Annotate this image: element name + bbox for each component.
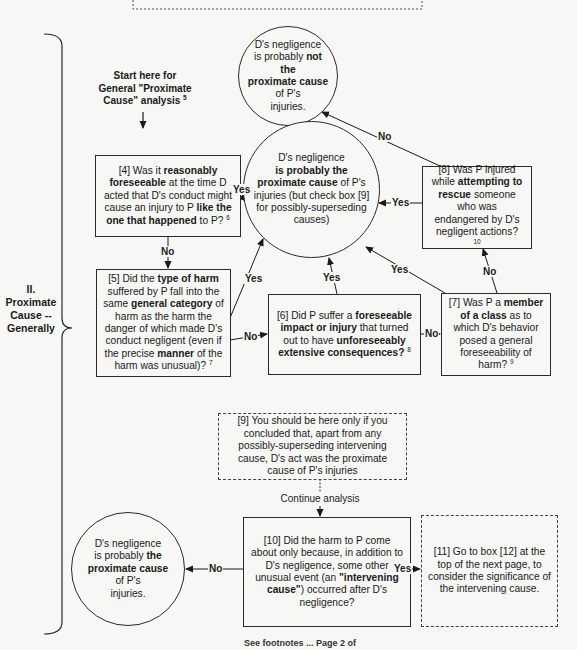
outcome-proximate-main-circle: D's negligence is probably the proximate… xyxy=(243,121,380,258)
circle-text: causes) xyxy=(254,214,370,226)
start-here-label: Start here for General "Proximate Cause"… xyxy=(95,70,195,108)
edge-label-b7-yes: Yes xyxy=(390,264,409,275)
circle-text: is probably xyxy=(254,51,306,62)
box-text: [11] Go to box [12] at the top of the ne… xyxy=(428,546,551,596)
section-number: II. xyxy=(2,283,60,296)
circle-text: D's negligence xyxy=(254,152,370,164)
section-title-line: Proximate xyxy=(2,296,60,309)
start-line: General "Proximate xyxy=(95,83,195,96)
outcome-not-proximate-circle: D's negligence is probably not the proxi… xyxy=(238,26,338,126)
edge-label-b8-no: No xyxy=(377,131,392,142)
circle-text-emphasis: is probably the xyxy=(275,165,347,176)
circle-text-emphasis: proximate cause xyxy=(88,563,168,574)
circle-text: is probably xyxy=(94,550,146,561)
start-line: Cause" analysis xyxy=(103,95,180,106)
box-text: [7] Was P a xyxy=(449,297,504,308)
edge-label-b4-yes: Yes xyxy=(232,184,251,195)
circle-text: for possibly-superseding xyxy=(254,202,370,214)
box-text: [4] Was it xyxy=(119,165,164,176)
edge-label-b10-yes: Yes xyxy=(393,563,412,574)
circle-text-emphasis: proximate cause xyxy=(257,177,337,188)
box-text: [9] You should be here only if you concl… xyxy=(225,415,400,477)
question-box-10: [10] Did the harm to P come about only b… xyxy=(243,517,411,627)
section-title-line: Generally xyxy=(2,322,60,335)
box-text: ) occurred after D's negligence? xyxy=(300,584,388,607)
question-box-4: [4] Was it reasonably foreseeable at the… xyxy=(95,155,241,237)
circle-text-emphasis: the xyxy=(146,550,161,561)
section-label: II. Proximate Cause -- Generally xyxy=(2,283,60,335)
circle-text-emphasis: proximate cause xyxy=(248,76,328,87)
start-line: Start here for xyxy=(95,70,195,83)
circle-text: of P's xyxy=(88,575,168,587)
footnote-ref: 9 xyxy=(510,358,514,365)
question-box-5: [5] Did the type of harm suffered by P f… xyxy=(96,269,231,377)
box-text-emphasis: manner xyxy=(157,348,194,359)
circle-text: injuries. xyxy=(88,588,168,600)
edge-label-b5-no: No xyxy=(243,331,258,342)
footnote-ref: 7 xyxy=(209,359,213,366)
box-text: [5] Did the xyxy=(108,273,157,284)
continue-analysis-label: Continue analysis xyxy=(270,493,370,504)
footnote-ref: 5 xyxy=(183,94,187,101)
circle-text: of P's xyxy=(338,177,366,188)
edge-label-b6-yes: Yes xyxy=(322,272,341,283)
question-box-8: [8] Was P injured while attempting to re… xyxy=(422,166,532,249)
box-text-emphasis: general category xyxy=(131,298,213,309)
box-text: to P? xyxy=(197,215,224,226)
circle-text: injuries. xyxy=(245,101,331,113)
outcome-proximate-final-circle: D's negligence is probably the proximate… xyxy=(71,512,185,626)
circle-text: D's negligence xyxy=(88,538,168,550)
edge-label-b10-no: No xyxy=(208,563,223,574)
edge-label-b6-no: No xyxy=(424,328,439,339)
edge-label-b5-yes: Yes xyxy=(244,273,263,284)
question-box-6: [6] Did P suffer a foreseeable impact or… xyxy=(268,294,421,375)
circle-text: of P's xyxy=(245,88,331,100)
page-footer: See footnotes ... Page 2 of xyxy=(200,638,400,648)
box-text: [6] Did P suffer a xyxy=(277,310,355,321)
circle-text: D's negligence xyxy=(245,39,331,51)
box-text-emphasis: type of harm xyxy=(158,273,219,284)
question-box-7: [7] Was P a member of a class as to whic… xyxy=(441,293,551,376)
footnote-ref: 6 xyxy=(226,214,230,221)
note-box-11: [11] Go to box [12] at the top of the ne… xyxy=(421,515,558,627)
section-title-line: Cause -- xyxy=(2,309,60,322)
note-box-9: [9] You should be here only if you concl… xyxy=(218,413,407,480)
circle-text: injuries (but check box [9] xyxy=(254,190,370,202)
edge-label-b4-no: No xyxy=(160,246,175,257)
edge-label-b7-no: No xyxy=(482,266,497,277)
edge-label-b8-yes: Yes xyxy=(391,197,410,208)
footnote-ref: 8 xyxy=(407,346,411,353)
footnote-ref: 10 xyxy=(473,238,480,245)
